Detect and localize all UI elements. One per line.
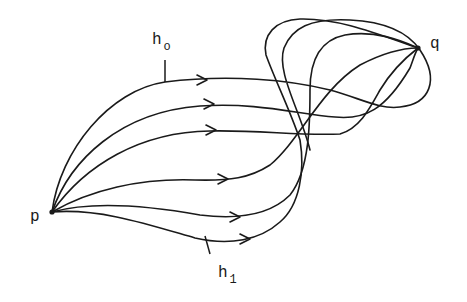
arrow-icon	[204, 99, 214, 109]
label-h1-subscript: 1	[230, 273, 237, 287]
path-h0	[52, 20, 430, 212]
point-q-dot	[415, 45, 420, 50]
label-q: q	[430, 36, 440, 52]
arrow-icon	[197, 75, 207, 85]
label-h0-main: h	[152, 31, 162, 49]
h1-tick	[205, 236, 210, 254]
path-3	[52, 48, 418, 212]
path-2	[52, 48, 418, 212]
arrow-icon	[206, 125, 216, 135]
label-h1: h1	[218, 265, 237, 281]
label-h0: ho	[152, 32, 171, 48]
point-p-dot	[49, 209, 54, 214]
label-p: p	[30, 209, 40, 225]
path-h1	[52, 19, 418, 242]
label-h1-main: h	[218, 264, 228, 282]
label-h0-subscript: o	[164, 40, 171, 54]
homotopy-diagram	[0, 0, 467, 302]
path-4	[52, 48, 418, 212]
